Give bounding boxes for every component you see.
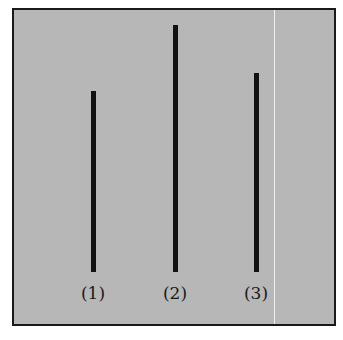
scan-seam <box>274 10 275 324</box>
line-label-1: (1) <box>73 283 113 303</box>
line-label-3: (3) <box>236 283 276 303</box>
vertical-line-1 <box>91 91 96 272</box>
vertical-line-2 <box>173 25 178 272</box>
vertical-line-3 <box>254 73 259 272</box>
line-label-2: (2) <box>155 283 195 303</box>
figure-frame: (1) (2) (3) <box>12 8 336 326</box>
